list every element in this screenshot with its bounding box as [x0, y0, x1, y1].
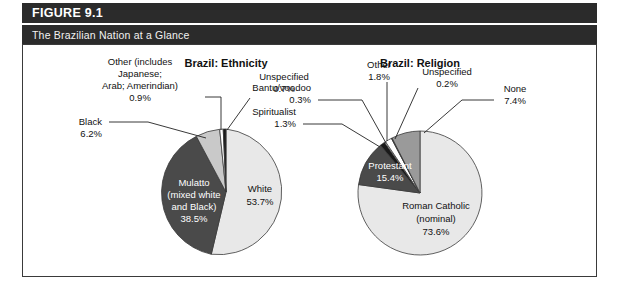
label-bantu-line2: 0.3%	[289, 94, 311, 105]
label-none-line2: 7.4%	[504, 95, 526, 106]
label-unspecified-line1: Unspecified	[259, 71, 309, 82]
label-catholic-line3: 73.6%	[423, 226, 450, 237]
label-mulatto-line4: 38.5%	[181, 213, 208, 224]
label-unspecified-religion: Unspecified 0.2%	[422, 66, 472, 89]
label-catholic-line1: Roman Catholic	[402, 200, 470, 211]
label-black-line2: 6.2%	[80, 128, 102, 139]
label-other-religion-line2: 1.8%	[368, 71, 390, 82]
label-protestant-line2: 15.4%	[377, 172, 404, 183]
label-other-line2: Japanese;	[118, 68, 162, 79]
leader-line-spiritualist	[303, 124, 380, 147]
label-black-line1: Black	[79, 116, 102, 127]
label-other-religion-line1: Other	[367, 59, 391, 70]
figure-subtitle-label: The Brazilian Nation at a Glance	[32, 29, 190, 41]
label-spiritualist-line2: 1.3%	[274, 118, 296, 129]
label-black: Black 6.2%	[79, 116, 103, 139]
label-spiritualist-line1: Spiritualist	[252, 106, 296, 117]
leader-line-none	[424, 100, 494, 133]
label-none-line1: None	[504, 83, 527, 94]
chart-religion: Brazil: Religion	[252, 57, 526, 255]
label-mulatto-line3: and Black)	[172, 201, 217, 212]
chart-religion-slices	[358, 131, 482, 255]
label-other-line3: Arab; Amerindian)	[102, 80, 178, 91]
charts-area: Brazil: Ethnicity	[22, 44, 597, 277]
figure-subtitle-bar: The Brazilian Nation at a Glance	[22, 25, 597, 44]
label-white-line2: 53.7%	[247, 196, 274, 207]
label-catholic-line2: (nominal)	[416, 213, 456, 224]
label-mulatto-line2: (mixed white	[167, 189, 220, 200]
label-spiritualist: Spiritualist 1.3%	[252, 106, 296, 129]
figure-container: FIGURE 9.1 The Brazilian Nation at a Gla…	[0, 0, 618, 295]
label-other-line1: Other (includes	[108, 56, 173, 67]
figure-number-label: FIGURE 9.1	[32, 6, 103, 20]
label-white-line1: White	[248, 183, 272, 194]
chart-ethnicity-title: Brazil: Ethnicity	[184, 57, 268, 69]
label-protestant-line1: Protestant	[368, 160, 412, 171]
pie-charts-svg: Brazil: Ethnicity	[22, 44, 597, 277]
label-bantu-line1: Bantu/voodoo	[252, 82, 311, 93]
leader-line-other	[205, 97, 221, 130]
label-unspecified-religion-line1: Unspecified	[422, 66, 472, 77]
label-none: None 7.4%	[504, 83, 527, 106]
figure-number-bar: FIGURE 9.1	[22, 3, 597, 23]
leader-line-black	[109, 122, 206, 138]
label-other-religion: Other 1.8%	[367, 59, 391, 82]
figure-header: FIGURE 9.1 The Brazilian Nation at a Gla…	[22, 3, 597, 44]
label-unspecified-religion-line2: 0.2%	[436, 78, 458, 89]
leader-line-bantu	[318, 100, 386, 143]
leader-line-unspecified	[227, 98, 250, 130]
label-mulatto-line1: Mulatto	[178, 177, 209, 188]
label-other: Other (includes Japanese; Arab; Amerindi…	[102, 56, 178, 103]
label-other-line4: 0.9%	[129, 92, 151, 103]
